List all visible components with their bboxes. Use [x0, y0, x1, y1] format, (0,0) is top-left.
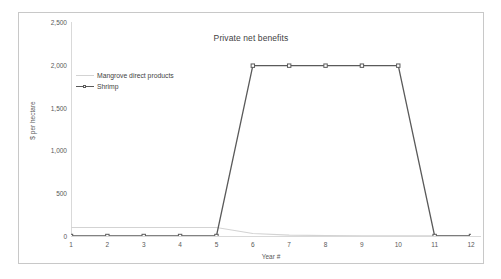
- legend-label: Mangrove direct products: [97, 72, 174, 79]
- series-plot: [71, 22, 471, 236]
- data-point-marker: [106, 234, 109, 236]
- legend-label: Shrimp: [97, 83, 119, 90]
- y-tick-label: 1,500: [33, 104, 67, 111]
- chart-legend: Mangrove direct productsShrimp: [76, 70, 174, 92]
- y-tick-label: 2,000: [33, 61, 67, 68]
- legend-item[interactable]: Mangrove direct products: [76, 70, 174, 81]
- legend-swatch-icon: [76, 72, 94, 80]
- x-tick-label: 3: [132, 241, 156, 248]
- chart-frame: Private net benefits $ per hectare 05001…: [18, 12, 484, 264]
- data-point-marker: [469, 234, 471, 236]
- x-tick-label: 2: [95, 241, 119, 248]
- legend-item[interactable]: Shrimp: [76, 81, 174, 92]
- data-point-marker: [360, 64, 363, 67]
- x-tick-label: 7: [277, 241, 301, 248]
- x-tick-label: 12: [459, 241, 483, 248]
- x-tick-label: 11: [423, 241, 447, 248]
- x-axis-title: Year #: [71, 253, 471, 260]
- x-tick-label: 9: [350, 241, 374, 248]
- x-tick-label: 6: [241, 241, 265, 248]
- data-point-marker: [433, 234, 436, 236]
- data-point-marker: [142, 234, 145, 236]
- legend-swatch-icon: [76, 83, 94, 91]
- y-axis-tick-labels: 05001,0001,5002,0002,500: [29, 22, 67, 236]
- data-point-marker: [71, 234, 73, 236]
- data-point-marker: [397, 64, 400, 67]
- x-tick-label: 10: [386, 241, 410, 248]
- data-point-marker: [287, 64, 290, 67]
- y-tick-label: 500: [33, 190, 67, 197]
- data-point-marker: [178, 234, 181, 236]
- x-tick-label: 4: [168, 241, 192, 248]
- y-tick-label: 0: [33, 233, 67, 240]
- data-point-marker: [215, 234, 218, 236]
- x-tick-label: 1: [59, 241, 83, 248]
- x-tick-label: 5: [204, 241, 228, 248]
- x-tick-label: 8: [314, 241, 338, 248]
- data-point-marker: [324, 64, 327, 67]
- plot-area: [71, 22, 471, 236]
- series-line: [71, 227, 471, 236]
- x-axis-line: [71, 236, 481, 237]
- y-tick-label: 2,500: [33, 19, 67, 26]
- y-tick-label: 1,000: [33, 147, 67, 154]
- data-point-marker: [251, 64, 254, 67]
- x-axis-tick-labels: 123456789101112: [71, 241, 471, 253]
